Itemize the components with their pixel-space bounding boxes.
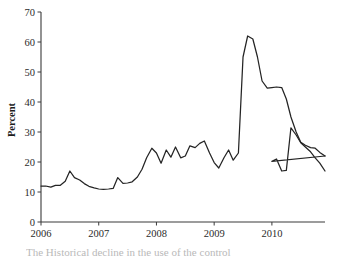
y-axis-title: Percent	[6, 102, 17, 137]
data-series-group	[41, 36, 325, 189]
x-tick-label: 2010	[261, 228, 282, 239]
y-tick-label: 30	[25, 127, 36, 138]
line-chart: 010203040506070 20062007200820092010 Per…	[0, 0, 346, 258]
figure-caption-partial: The Historical decline in the use of the…	[26, 246, 326, 258]
x-tick-label: 2009	[204, 228, 225, 239]
x-tick-label: 2007	[88, 228, 109, 239]
y-axis: 010203040506070	[25, 7, 42, 228]
x-axis: 20062007200820092010	[31, 222, 326, 239]
y-tick-label: 40	[25, 97, 36, 108]
x-tick-label: 2006	[31, 228, 52, 239]
y-tick-label: 70	[25, 7, 36, 18]
y-tick-label: 10	[25, 187, 36, 198]
series-line-main	[41, 36, 325, 189]
y-tick-label: 60	[25, 37, 36, 48]
figure-container: 010203040506070 20062007200820092010 Per…	[0, 0, 346, 258]
y-tick-label: 50	[25, 67, 36, 78]
x-tick-label: 2008	[146, 228, 167, 239]
y-tick-label: 20	[25, 157, 36, 168]
y-tick-label: 0	[30, 217, 35, 228]
